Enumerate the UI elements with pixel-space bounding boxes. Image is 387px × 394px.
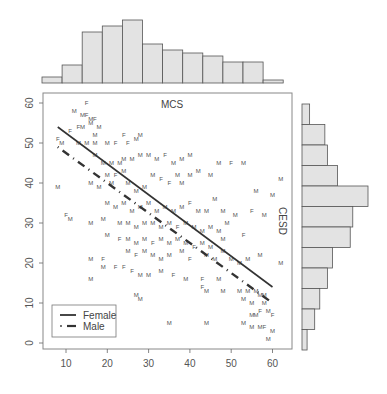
data-point: M (179, 204, 184, 210)
data-point: M (142, 248, 147, 254)
data-point: M (84, 140, 89, 146)
data-point: M (253, 188, 258, 194)
data-point: M (270, 328, 275, 334)
data-point: F (101, 256, 105, 262)
histogram-bar (302, 186, 368, 207)
data-point: M (241, 160, 246, 166)
data-point: M (200, 240, 205, 246)
data-point: F (188, 200, 192, 206)
data-point: F (93, 116, 97, 122)
x-tick-label: 40 (184, 358, 196, 369)
x-tick-label: 50 (226, 358, 238, 369)
y-axis-label: CESD (277, 207, 288, 235)
histogram-bar (102, 26, 122, 83)
histogram-bar (302, 309, 315, 330)
y-tick-label: 10 (24, 297, 35, 309)
x-tick-label: 10 (60, 358, 72, 369)
histogram-bar (183, 53, 203, 83)
data-point: M (262, 300, 267, 306)
data-point: F (163, 152, 167, 158)
data-point: M (187, 172, 192, 178)
histogram-bar (302, 145, 327, 166)
data-point: M (150, 172, 155, 178)
histogram-bar (122, 20, 142, 83)
data-point: M (130, 156, 135, 162)
data-point: M (121, 200, 126, 206)
data-point: M (266, 336, 271, 342)
data-point: M (270, 192, 275, 198)
histogram-bar (263, 80, 283, 83)
data-point: F (68, 128, 72, 134)
data-point: M (241, 296, 246, 302)
x-tick-label: 60 (267, 358, 279, 369)
data-point: M (249, 324, 254, 330)
data-point: M (216, 228, 221, 234)
histogram-bar (302, 330, 307, 351)
legend-male-label: Male (83, 321, 105, 332)
data-point: F (151, 240, 155, 246)
data-point: M (88, 256, 93, 262)
y-tick-label: 40 (24, 177, 35, 189)
data-point: M (179, 248, 184, 254)
data-point: M (241, 320, 246, 326)
data-point: M (88, 120, 93, 126)
y-tick-label: 20 (24, 257, 35, 269)
histogram-bar (302, 268, 327, 289)
data-point: M (167, 220, 172, 226)
data-point: F (176, 224, 180, 230)
data-point: M (158, 256, 163, 262)
data-point: M (204, 288, 209, 294)
data-point: M (262, 212, 267, 218)
plot-title: MCS (161, 99, 184, 110)
data-point: M (138, 132, 143, 138)
data-point: M (158, 236, 163, 242)
data-point: M (121, 156, 126, 162)
data-point: M (125, 248, 130, 254)
data-point: M (142, 220, 147, 226)
data-point: M (220, 236, 225, 242)
data-point: M (175, 172, 180, 178)
data-point: F (118, 236, 122, 242)
histogram-bar (243, 62, 263, 83)
data-point: F (250, 208, 254, 214)
data-point: M (146, 272, 151, 278)
data-point: F (122, 132, 126, 138)
data-point: M (68, 216, 73, 222)
data-point: M (92, 140, 97, 146)
data-point: F (126, 140, 130, 146)
data-point: M (187, 152, 192, 158)
data-point: M (154, 208, 159, 214)
data-point: M (167, 320, 172, 326)
data-point: F (192, 244, 196, 250)
data-point: F (188, 256, 192, 262)
x-axis: 102030405060 (60, 349, 278, 369)
data-point: M (249, 300, 254, 306)
data-point: M (278, 260, 283, 266)
data-point: M (179, 180, 184, 186)
data-point: M (125, 236, 130, 242)
data-point: M (105, 140, 110, 146)
histogram-bar (302, 289, 320, 310)
data-point: M (196, 208, 201, 214)
data-point: M (101, 264, 106, 270)
histogram-bar (163, 50, 183, 83)
data-point: M (233, 212, 238, 218)
data-point: F (130, 268, 134, 274)
histogram-bar (302, 104, 310, 125)
data-point: M (88, 276, 93, 282)
histogram-bar (302, 248, 332, 269)
histogram-bar (302, 166, 338, 187)
data-point: M (72, 108, 77, 114)
data-point: M (88, 180, 93, 186)
data-point: M (208, 224, 213, 230)
data-point: F (200, 276, 204, 282)
data-point: M (97, 124, 102, 130)
data-point: M (138, 296, 143, 302)
histogram-bar (42, 77, 62, 83)
data-point: M (146, 152, 151, 158)
data-point: F (262, 324, 266, 330)
data-point: F (134, 252, 138, 258)
data-point: F (167, 180, 171, 186)
data-point: F (114, 140, 118, 146)
data-point: F (229, 160, 233, 166)
